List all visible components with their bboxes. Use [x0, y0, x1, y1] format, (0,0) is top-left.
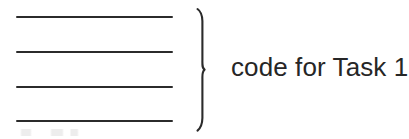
code-line-3: [16, 86, 173, 88]
figure-canvas: code for Task 1: [0, 0, 409, 139]
right-curly-brace-icon: [186, 4, 214, 136]
annotation-label: code for Task 1: [231, 50, 409, 84]
code-line-2: [16, 51, 173, 53]
code-line-1: [16, 16, 173, 18]
code-line-group: [0, 0, 185, 139]
code-line-4: [16, 120, 173, 122]
